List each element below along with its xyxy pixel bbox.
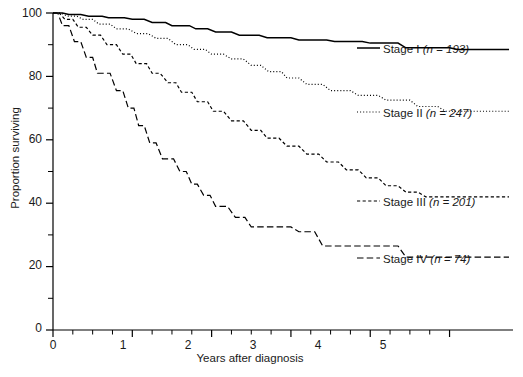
series-curve-stage-ii <box>53 13 509 111</box>
survival-chart-figure: Proportion surviving Years after diagnos… <box>0 0 523 377</box>
legend-swatch-lines <box>357 48 380 258</box>
series-curve-stage-iii <box>53 13 509 197</box>
series-curve-stage-i <box>53 13 509 49</box>
plot-canvas <box>0 0 523 377</box>
axis-lines <box>53 13 513 330</box>
series-curves <box>53 13 509 257</box>
series-curve-stage-iv <box>53 13 509 257</box>
y-axis-minor-ticks <box>48 45 53 299</box>
x-axis-minor-ticks <box>73 330 430 335</box>
